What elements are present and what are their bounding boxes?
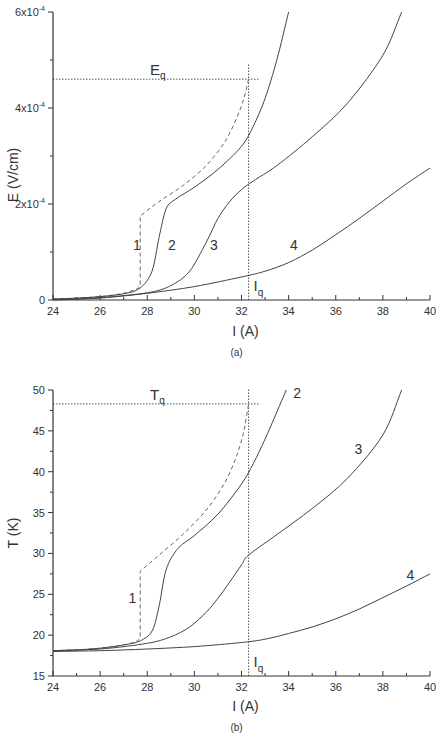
threshold-horizontal-label: Tq bbox=[150, 386, 165, 406]
chart-panel-a: 24262830323436384002x10-44x10-46x10-4I (… bbox=[5, 5, 436, 358]
y-tick-exponent: -4 bbox=[39, 5, 45, 12]
x-tick-label: 28 bbox=[141, 305, 153, 317]
threshold-horizontal-label: Eq bbox=[150, 61, 166, 81]
curve-label-1: 1 bbox=[133, 237, 141, 253]
x-axis-title: I (A) bbox=[232, 323, 258, 339]
annotation-subscript: q bbox=[159, 395, 165, 406]
y-tick-text: 35 bbox=[33, 507, 45, 519]
series-2-curve bbox=[53, 12, 289, 299]
annotation-subscript: q bbox=[160, 70, 166, 81]
x-tick-label: 38 bbox=[377, 305, 389, 317]
annotation-subscript: q bbox=[258, 663, 264, 674]
x-tick-label: 26 bbox=[94, 681, 106, 693]
x-tick-label: 34 bbox=[283, 681, 295, 693]
y-tick-label: 25 bbox=[33, 588, 45, 600]
curve-label-1: 1 bbox=[128, 590, 136, 606]
y-tick-label: 30 bbox=[33, 547, 45, 559]
y-tick-label: 15 bbox=[33, 670, 45, 682]
x-tick-label: 32 bbox=[235, 681, 247, 693]
y-tick-label: 50 bbox=[33, 384, 45, 396]
curve-label-4: 4 bbox=[406, 567, 414, 583]
y-tick-text: 4x10 bbox=[15, 102, 39, 114]
y-tick-text: 0 bbox=[39, 294, 45, 306]
annotation-subscript: q bbox=[258, 287, 264, 298]
y-tick-text: 6x10 bbox=[15, 6, 39, 18]
y-tick-label: 40 bbox=[33, 466, 45, 478]
annotation-text: E bbox=[150, 61, 160, 78]
y-tick-label: 35 bbox=[33, 507, 45, 519]
y-tick-label: 6x10-4 bbox=[15, 5, 45, 18]
x-tick-label: 40 bbox=[424, 681, 436, 693]
figure: 24262830323436384002x10-44x10-46x10-4I (… bbox=[0, 0, 445, 739]
y-tick-label: 20 bbox=[33, 629, 45, 641]
y-tick-exponent: -4 bbox=[39, 197, 45, 204]
x-tick-label: 24 bbox=[47, 681, 59, 693]
y-tick-text: 30 bbox=[33, 547, 45, 559]
series-1-curve bbox=[53, 79, 249, 299]
x-tick-label: 36 bbox=[330, 305, 342, 317]
x-tick-label: 30 bbox=[188, 681, 200, 693]
x-tick-label: 34 bbox=[283, 305, 295, 317]
y-tick-exponent: -4 bbox=[39, 101, 45, 108]
x-tick-label: 38 bbox=[377, 681, 389, 693]
curve-label-3: 3 bbox=[210, 237, 218, 253]
y-axis-title: E (V/cm) bbox=[5, 148, 21, 202]
series-2-curve bbox=[53, 390, 286, 651]
chart-panel-b: 2426283032343638401520253035404550I (A)T… bbox=[5, 384, 436, 733]
x-tick-label: 36 bbox=[330, 681, 342, 693]
threshold-vertical-label: Iq bbox=[254, 277, 264, 298]
curve-label-3: 3 bbox=[355, 441, 363, 457]
y-tick-text: 15 bbox=[33, 670, 45, 682]
y-tick-label: 0 bbox=[39, 294, 45, 306]
series-3-curve bbox=[53, 390, 402, 651]
x-axis-title: I (A) bbox=[232, 698, 258, 714]
series-1-curve bbox=[53, 404, 249, 651]
series-4-curve bbox=[53, 574, 430, 652]
panel-label: (a) bbox=[230, 347, 242, 358]
curve-label-2: 2 bbox=[168, 237, 176, 253]
x-tick-label: 40 bbox=[424, 305, 436, 317]
y-tick-label: 4x10-4 bbox=[15, 101, 45, 114]
y-axis-title: T (K) bbox=[5, 518, 21, 549]
panel-label: (b) bbox=[230, 722, 242, 733]
curve-label-4: 4 bbox=[290, 237, 298, 253]
y-tick-text: 20 bbox=[33, 629, 45, 641]
series-3-curve bbox=[53, 12, 402, 300]
x-tick-label: 30 bbox=[188, 305, 200, 317]
y-tick-text: 40 bbox=[33, 466, 45, 478]
y-tick-text: 25 bbox=[33, 588, 45, 600]
x-tick-label: 24 bbox=[47, 305, 59, 317]
threshold-vertical-label: Iq bbox=[254, 653, 264, 674]
y-tick-text: 45 bbox=[33, 425, 45, 437]
curve-label-2: 2 bbox=[293, 385, 301, 401]
x-tick-label: 32 bbox=[235, 305, 247, 317]
x-tick-label: 26 bbox=[94, 305, 106, 317]
annotation-text: T bbox=[150, 386, 159, 403]
series-4-curve bbox=[53, 168, 430, 300]
x-tick-label: 28 bbox=[141, 681, 153, 693]
y-tick-text: 50 bbox=[33, 384, 45, 396]
y-tick-label: 45 bbox=[33, 425, 45, 437]
